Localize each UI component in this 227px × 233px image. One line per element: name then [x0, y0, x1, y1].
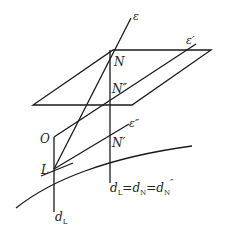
- label-O: O: [40, 132, 50, 146]
- eq-equals2: =: [146, 181, 156, 195]
- label-epsilon: ε: [133, 10, 139, 23]
- label-epsilon-prime: ε′: [186, 34, 195, 47]
- label-equation: dL=dN=dN″: [110, 178, 174, 197]
- diagram-svg: ε ε′ ε″ N N″ N′ O L dL dL=dN=dN″: [0, 0, 227, 233]
- label-N: N: [113, 55, 125, 69]
- label-L: L: [40, 163, 49, 177]
- eq-equals1: =: [122, 181, 132, 195]
- label-dL: dL: [55, 210, 68, 226]
- label-N-prime: N′: [111, 136, 126, 150]
- label-dL-sub: L: [63, 218, 68, 226]
- label-N-double-prime: N″: [111, 82, 128, 96]
- label-epsilon-double-prime: ε″: [129, 117, 140, 130]
- curve: [16, 146, 192, 208]
- diagram-figure: ε ε′ ε″ N N″ N′ O L dL dL=dN=dN″: [0, 0, 227, 233]
- eq-sub3: N: [164, 189, 170, 197]
- eq-sup3: ″: [170, 178, 174, 188]
